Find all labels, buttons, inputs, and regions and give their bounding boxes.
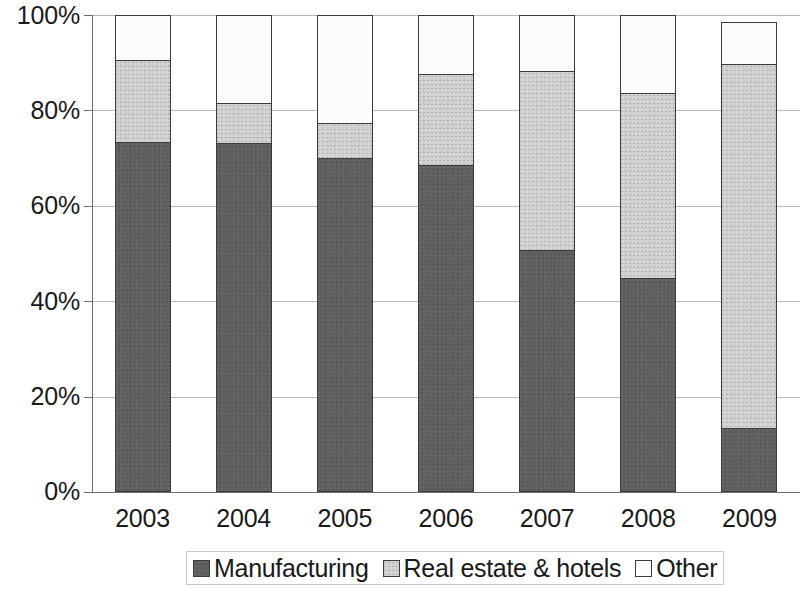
bar-segment-other[interactable] [317,15,373,123]
bar-segment-manufacturing[interactable] [317,158,373,492]
x-axis-tick-label-2008: 2008 [598,503,699,533]
bar-segment-manufacturing[interactable] [418,165,474,492]
bar-segment-real-estate-hotels[interactable] [216,103,272,143]
y-axis-tick-label: 100% [0,3,80,28]
bar-group-2004[interactable] [193,15,294,492]
legend-swatch-icon-real-estate-hotels [383,560,400,577]
bar-segment-manufacturing[interactable] [620,278,676,492]
y-axis-tick-label: 80% [0,98,80,123]
x-axis-tick-label-2009: 2009 [699,503,800,533]
gridline-0 [92,492,800,493]
bar-segment-other[interactable] [721,22,777,64]
legend-swatch-icon-other [635,560,652,577]
bar-group-2009[interactable] [699,15,800,492]
legend-swatch-icon-manufacturing [193,560,210,577]
x-axis-labels: 2003 2004 2005 2006 2007 2008 2009 [92,503,800,539]
bar-group-2005[interactable] [294,15,395,492]
bar-stack [418,15,474,492]
bar-stack [115,15,171,492]
bar-segment-other[interactable] [620,15,676,93]
y-axis-tick-label: 60% [0,193,80,218]
bar-stack [620,15,676,492]
stacked-bar-chart: 100% 80% 60% 40% 20% 0% [0,0,808,590]
bar-segment-real-estate-hotels[interactable] [519,71,575,250]
x-axis-tick-label-2004: 2004 [193,503,294,533]
bar-segment-other[interactable] [115,15,171,60]
bar-segment-real-estate-hotels[interactable] [418,74,474,165]
bar-segment-manufacturing[interactable] [721,428,777,492]
bar-segment-other[interactable] [216,15,272,103]
bar-group-2003[interactable] [92,15,193,492]
chart-legend: Manufacturing Real estate & hotels Other [186,551,724,585]
bar-segment-real-estate-hotels[interactable] [721,64,777,428]
y-axis-labels: 100% 80% 60% 40% 20% 0% [0,0,80,590]
x-axis-tick-label-2005: 2005 [294,503,395,533]
bars-layer [92,15,800,492]
bar-segment-manufacturing[interactable] [216,143,272,492]
bar-group-2006[interactable] [395,15,496,492]
x-axis-tick-label-2007: 2007 [497,503,598,533]
bar-segment-manufacturing[interactable] [115,142,171,492]
bar-stack [721,22,777,492]
bar-group-2008[interactable] [598,15,699,492]
y-axis-tick-label: 0% [0,479,80,504]
bar-segment-other[interactable] [418,15,474,74]
bar-stack [317,15,373,492]
y-axis-tick-label: 20% [0,384,80,409]
x-axis-tick-label-2006: 2006 [395,503,496,533]
legend-label-other: Other [656,555,717,582]
bar-segment-other[interactable] [519,15,575,71]
legend-item-manufacturing[interactable]: Manufacturing [193,555,369,582]
bar-stack [216,15,272,492]
bar-segment-real-estate-hotels[interactable] [317,123,373,158]
bar-segment-real-estate-hotels[interactable] [115,60,171,142]
x-axis-tick-label-2003: 2003 [92,503,193,533]
legend-item-real-estate-hotels[interactable]: Real estate & hotels [383,555,622,582]
bar-segment-manufacturing[interactable] [519,250,575,492]
bar-segment-real-estate-hotels[interactable] [620,93,676,278]
y-axis-tick-label: 40% [0,289,80,314]
bar-stack [519,15,575,492]
legend-label-manufacturing: Manufacturing [214,555,369,582]
bar-group-2007[interactable] [497,15,598,492]
legend-label-real-estate-hotels: Real estate & hotels [404,555,622,582]
legend-item-other[interactable]: Other [635,555,717,582]
